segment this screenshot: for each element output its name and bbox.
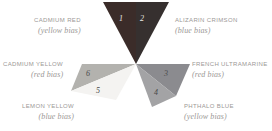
label-french-ultramarine-bias: (red bias): [192, 70, 268, 80]
label-french-ultramarine-pigment: FRENCH ULTRAMARINE: [192, 61, 268, 69]
label-cadmium-yellow: CADMIUM YELLOW (red bias): [3, 61, 63, 80]
label-phthalo-blue-bias: (yellow bias): [184, 112, 234, 122]
wedge-number-4: 4: [154, 88, 158, 97]
label-cadmium-yellow-pigment: CADMIUM YELLOW: [3, 61, 63, 69]
wedge-number-2: 2: [140, 14, 144, 23]
label-lemon-yellow-pigment: LEMON YELLOW: [22, 103, 74, 111]
wedge-2-alizarin-crimson[interactable]: [136, 2, 169, 64]
label-cadmium-yellow-bias: (red bias): [3, 70, 63, 80]
label-french-ultramarine: FRENCH ULTRAMARINE (red bias): [192, 61, 268, 80]
label-phthalo-blue-pigment: PHTHALO BLUE: [184, 103, 234, 111]
label-cadmium-red-bias: (yellow bias): [34, 26, 81, 36]
label-alizarin-crimson-bias: (blue bias): [175, 26, 238, 36]
wedge-number-1: 1: [119, 14, 123, 23]
wedge-number-3: 3: [163, 69, 168, 78]
label-phthalo-blue: PHTHALO BLUE (yellow bias): [184, 103, 234, 122]
label-cadmium-red-pigment: CADMIUM RED: [34, 17, 81, 25]
label-alizarin-crimson-pigment: ALIZARIN CRIMSON: [175, 17, 238, 25]
label-lemon-yellow-bias: (blue bias): [22, 112, 74, 122]
label-cadmium-red: CADMIUM RED (yellow bias): [34, 17, 81, 36]
wedge-1-cadmium-red[interactable]: [103, 2, 136, 64]
wedge-number-6: 6: [86, 69, 90, 78]
wedge-number-5: 5: [96, 86, 100, 95]
label-lemon-yellow: LEMON YELLOW (blue bias): [22, 103, 74, 122]
pigment-bias-diagram: 1 2 3 4 5 6 CADMIUM RED (yellow bias) AL…: [0, 0, 272, 131]
label-alizarin-crimson: ALIZARIN CRIMSON (blue bias): [175, 17, 238, 36]
